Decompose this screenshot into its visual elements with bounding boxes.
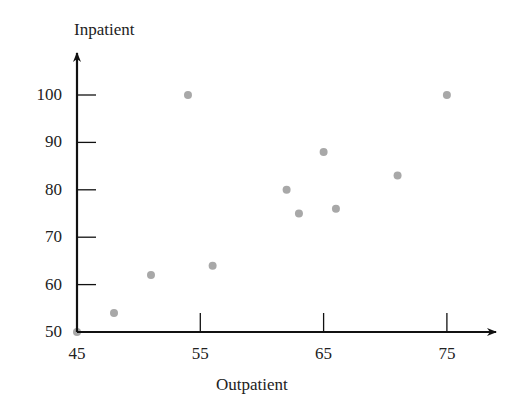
data-points: [73, 91, 451, 336]
y-tick-label: 60: [12, 276, 62, 293]
x-tick-label: 65: [304, 345, 344, 362]
data-point: [394, 172, 402, 180]
x-axis-title: Outpatient: [216, 375, 288, 395]
data-point: [147, 271, 155, 279]
data-point: [110, 309, 118, 317]
y-axis-ticks: [77, 95, 96, 285]
y-tick-label: 100: [12, 86, 62, 103]
data-point: [184, 91, 192, 99]
data-point: [320, 148, 328, 156]
scatter-chart: 5060708090100 45556575 Inpatient Outpati…: [0, 0, 520, 413]
data-point: [295, 210, 303, 218]
y-tick-label: 80: [12, 181, 62, 198]
x-tick-label: 75: [427, 345, 467, 362]
x-axis-ticks: [200, 313, 447, 332]
data-point: [443, 91, 451, 99]
y-tick-label: 50: [12, 323, 62, 340]
y-tick-label: 90: [12, 133, 62, 150]
data-point: [332, 205, 340, 213]
x-tick-label: 55: [180, 345, 220, 362]
y-tick-label: 70: [12, 228, 62, 245]
data-point: [209, 262, 217, 270]
data-point: [283, 186, 291, 194]
y-axis-title: Inpatient: [74, 20, 134, 40]
x-tick-label: 45: [57, 345, 97, 362]
